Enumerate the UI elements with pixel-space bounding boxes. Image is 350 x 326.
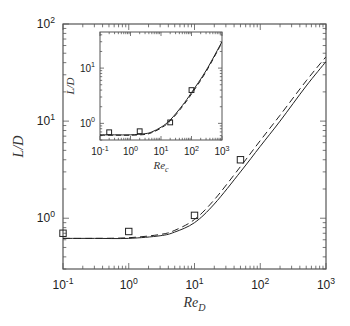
x-tick-label: 103	[214, 144, 229, 158]
chart-figure: 10-1100101102103100101102ReDL/D 10-11001…	[0, 0, 350, 326]
inset-y-axis-title: L/D	[64, 77, 76, 95]
main-x-axis-title: ReD	[182, 295, 206, 313]
x-tick-label: 101	[153, 144, 168, 158]
inset-frame	[100, 32, 222, 140]
x-tick-label: 100	[120, 276, 138, 292]
x-tick-label: 10-1	[91, 144, 109, 158]
inset-plot-axes: 10-1100101102103100101RecL/D	[64, 32, 230, 174]
x-tick-label: 102	[251, 276, 269, 292]
y-tick-label: 102	[37, 15, 55, 31]
main-y-axis-title: L/D	[11, 136, 26, 159]
data-marker-square	[126, 228, 132, 234]
y-tick-label: 100	[37, 209, 55, 225]
x-tick-label: 10-1	[52, 276, 73, 292]
x-tick-label: 102	[184, 144, 199, 158]
x-tick-label: 101	[185, 276, 203, 292]
y-tick-label: 100	[80, 115, 95, 129]
x-tick-label: 100	[123, 144, 138, 158]
y-tick-label: 101	[37, 112, 55, 128]
x-tick-label: 103	[317, 276, 335, 292]
inset-x-axis-title: Rec	[152, 159, 169, 174]
y-tick-label: 101	[80, 60, 95, 74]
data-marker-square	[237, 157, 243, 163]
